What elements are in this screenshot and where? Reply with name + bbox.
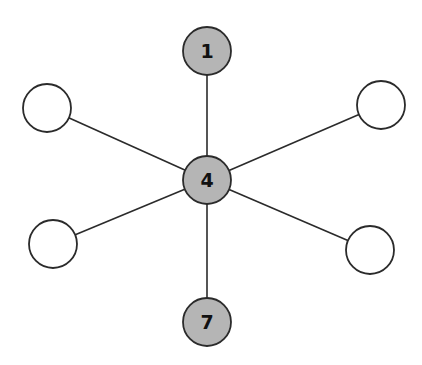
node-label: 7 (200, 311, 213, 333)
node-lower-left (29, 220, 77, 268)
star-graph: 147 (0, 0, 422, 365)
node-upper-right (357, 81, 405, 129)
node-circle (23, 84, 71, 132)
node-circle (357, 81, 405, 129)
node-circle (346, 226, 394, 274)
edge-center-lower-right (207, 180, 370, 250)
node-label: 4 (200, 169, 213, 191)
nodes: 147 (23, 27, 405, 346)
edge-center-upper-left (47, 108, 207, 180)
edge-center-upper-right (207, 105, 381, 180)
node-lower-right (346, 226, 394, 274)
edge-center-lower-left (53, 180, 207, 244)
node-circle (29, 220, 77, 268)
node-center: 4 (183, 156, 231, 204)
node-bottom: 7 (183, 298, 231, 346)
node-label: 1 (200, 40, 213, 62)
node-top: 1 (183, 27, 231, 75)
node-upper-left (23, 84, 71, 132)
